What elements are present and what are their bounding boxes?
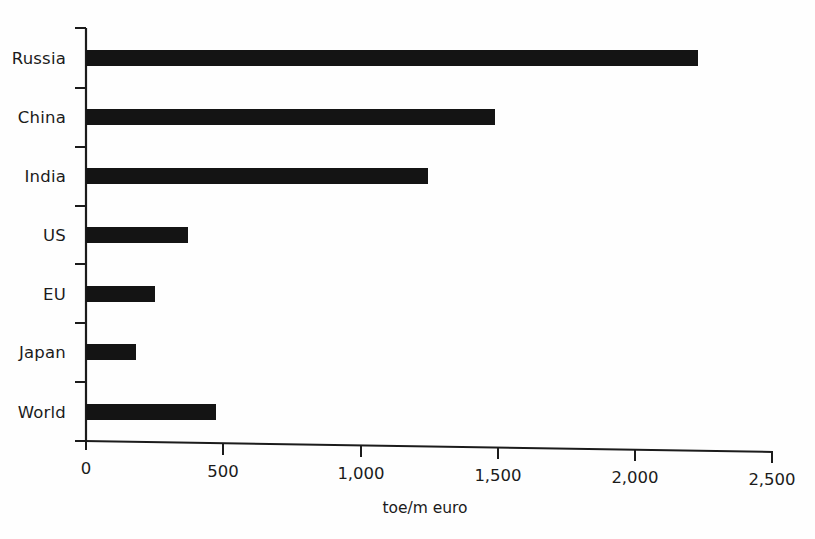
x-tick-labels: 0 500 1,000 1,500 2,000 2,500 — [0, 0, 815, 539]
x-tick-label-1500: 1,500 — [458, 468, 538, 485]
x-tick-label-2500: 2,500 — [732, 472, 812, 489]
x-tick-label-2000: 2,000 — [595, 470, 675, 487]
x-axis-title: toe/m euro — [325, 501, 525, 517]
x-tick-label-0: 0 — [46, 461, 126, 478]
x-tick-label-500: 500 — [183, 464, 263, 481]
bar-chart: Russia China India US EU Japan World 0 5… — [0, 0, 815, 539]
x-tick-label-1000: 1,000 — [321, 466, 401, 483]
